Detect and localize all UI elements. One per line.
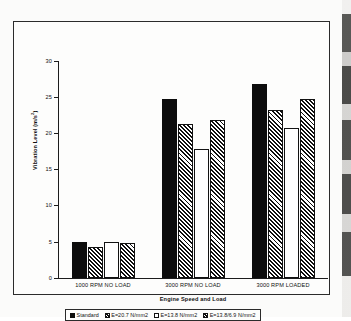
y-axis-tick-label: 15: [46, 166, 52, 172]
x-axis-category-label: 3000 RPM LOADED: [238, 282, 328, 288]
y-axis-tick-label: 10: [46, 202, 52, 208]
legend-item[interactable]: E=20.7 N/mm2: [105, 312, 148, 318]
bar[interactable]: [120, 243, 135, 278]
y-axis-tick-label: 0: [49, 275, 52, 281]
plot-area: 051015202530: [58, 61, 328, 279]
y-axis-tick-mark: [54, 205, 58, 206]
y-axis-tick-label: 25: [46, 94, 52, 100]
bar[interactable]: [72, 242, 87, 278]
x-axis-line: [58, 278, 328, 279]
legend-label: E=20.7 N/mm2: [111, 312, 148, 318]
y-axis-tick-label: 20: [46, 130, 52, 136]
legend-swatch-icon: [154, 313, 159, 318]
legend-swatch-icon: [203, 313, 208, 318]
chart-frame: Vibration Level (m/s2) 051015202530 1000…: [13, 21, 330, 295]
y-axis-title-tail: ): [32, 111, 38, 113]
y-axis-tick-mark: [54, 278, 58, 279]
x-axis-title: Engine Speed and Load: [58, 296, 328, 302]
legend-label: E=13.8 N/mm2: [160, 312, 197, 318]
bar[interactable]: [268, 110, 283, 278]
bar-group: [238, 61, 328, 278]
x-axis-category-label: 1000 RPM NO LOAD: [58, 282, 148, 288]
plot-inner: 051015202530: [58, 61, 328, 279]
y-axis-tick-mark: [54, 242, 58, 243]
bar[interactable]: [104, 242, 119, 278]
bar[interactable]: [178, 124, 193, 278]
y-axis-tick-mark: [54, 133, 58, 134]
bar[interactable]: [252, 84, 267, 278]
bar[interactable]: [284, 128, 299, 278]
scan-page-edge-artifact: [342, 0, 351, 317]
legend-label: Standard: [77, 312, 99, 318]
legend-label: E=13.8/6.9 N/mm2: [210, 312, 256, 318]
bar[interactable]: [88, 247, 103, 278]
y-axis-tick-label: 5: [49, 239, 52, 245]
chart-legend: StandardE=20.7 N/mm2E=13.8 N/mm2E=13.8/6…: [65, 309, 261, 321]
legend-swatch-icon: [70, 313, 75, 318]
bar-groups: [59, 61, 328, 278]
legend-item[interactable]: E=13.8 N/mm2: [154, 312, 197, 318]
y-axis-tick-mark: [54, 97, 58, 98]
x-axis-category-label: 3000 RPM NO LOAD: [148, 282, 238, 288]
y-axis-tick-label: 30: [46, 58, 52, 64]
legend-swatch-icon: [105, 313, 110, 318]
bar-group: [59, 61, 149, 278]
legend-item[interactable]: Standard: [70, 312, 99, 318]
legend-item[interactable]: E=13.8/6.9 N/mm2: [203, 312, 255, 318]
bar[interactable]: [210, 120, 225, 277]
y-axis-tick-mark: [54, 169, 58, 170]
y-axis-tick-mark: [54, 61, 58, 62]
y-axis-title-text: Vibration Level (m/s: [32, 115, 38, 170]
bar[interactable]: [194, 149, 209, 278]
x-axis-category-labels: 1000 RPM NO LOAD3000 RPM NO LOAD3000 RPM…: [58, 282, 328, 288]
bar[interactable]: [162, 99, 177, 277]
y-axis-title-superscript: 2: [30, 113, 35, 115]
bar[interactable]: [300, 99, 315, 277]
y-axis-title: Vibration Level (m/s2): [30, 111, 38, 170]
bar-group: [149, 61, 239, 278]
